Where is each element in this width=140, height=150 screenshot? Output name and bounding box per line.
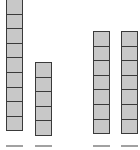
stack-4 [121,31,138,134]
unit-block [6,72,23,88]
unit-block [121,119,138,135]
unit-block [6,57,23,73]
unit-block [121,104,138,120]
unit-block [35,77,52,93]
unit-block [121,75,138,91]
unit-block [6,28,23,44]
unit-block [6,101,23,117]
stack-1 [6,0,23,131]
unit-block [35,106,52,122]
unit-block [93,104,110,120]
unit-block [6,0,23,15]
unit-block [35,62,52,78]
stack-label-clipped [93,145,110,150]
stack-3 [93,31,110,134]
stack-2 [35,62,52,136]
unit-block [93,60,110,76]
unit-block [93,46,110,62]
unit-block [93,119,110,135]
unit-block [6,14,23,30]
unit-block [35,91,52,107]
stack-label-clipped [6,145,23,150]
stack-label-clipped [35,145,52,150]
unit-block [93,31,110,47]
unit-block [121,31,138,47]
unit-block [121,60,138,76]
unit-block [6,43,23,59]
stack-label-clipped [121,145,138,150]
unit-block [6,116,23,132]
unit-block [6,87,23,103]
unit-block [121,46,138,62]
unit-block [93,89,110,105]
unit-block [35,120,52,136]
unit-block [121,89,138,105]
unit-block [93,75,110,91]
